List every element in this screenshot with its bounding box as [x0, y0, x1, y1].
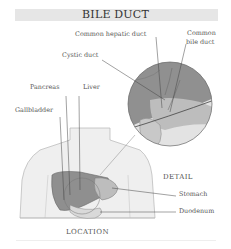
label-location: LOCATION: [66, 228, 109, 236]
label-gallbladder: Gallbladder: [15, 107, 53, 114]
label-common-bile-duct-line2: bile duct: [186, 39, 214, 46]
label-common-hepatic-duct: Common hepatic duct: [75, 31, 146, 38]
torso-outline: [20, 128, 155, 218]
label-liver: Liver: [83, 84, 100, 91]
detail-magnified-circle: [120, 60, 220, 150]
label-duodenum: Duodenum: [179, 208, 214, 215]
label-cystic-duct: Cystic duct: [62, 52, 98, 59]
label-detail: DETAIL: [163, 173, 193, 181]
label-common-bile-duct-line1: Common: [187, 30, 216, 37]
bottom-divider: [16, 240, 216, 241]
label-stomach: Stomach: [179, 191, 207, 198]
label-pancreas: Pancreas: [30, 84, 59, 91]
